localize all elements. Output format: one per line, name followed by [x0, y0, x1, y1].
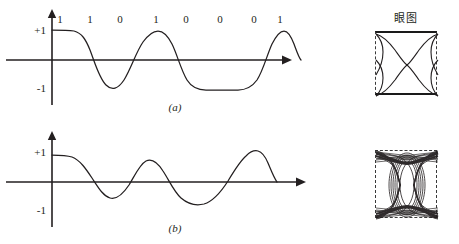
x-axis-b: [6, 178, 306, 187]
eye-diagram-box-bottom: [375, 150, 437, 218]
waveform-panel-a: 1 1 0 1 0 0 0 1 +1 -1 (a): [0, 0, 340, 122]
bit-label-5: 0: [213, 13, 227, 26]
y-axis-label-minus-one-b: -1: [20, 204, 46, 216]
signal-trace-b: [52, 151, 277, 205]
bit-label-4: 0: [179, 13, 193, 26]
bit-label-6: 0: [247, 13, 261, 26]
bit-sequence-row-a: 1 1 0 1 0 0 0 1: [52, 13, 288, 27]
x-axis-a: [6, 56, 292, 65]
eye-diagram-panel-bottom: [352, 122, 459, 244]
eye-trace-oval-multitrace: [375, 150, 439, 220]
bit-label-2: 0: [113, 13, 127, 26]
bit-label-3: 1: [149, 13, 163, 26]
panel-caption-a: (a): [155, 101, 195, 113]
bit-label-1: 1: [83, 13, 97, 26]
eye-diagram-panel-top: 眼图: [352, 0, 459, 122]
y-axis-label-minus-one-a: -1: [20, 82, 46, 94]
eye-diagram-title: 眼图: [352, 12, 459, 26]
eye-trace-diamond: [375, 32, 439, 98]
y-axis-b: [48, 131, 56, 227]
y-axis-label-plus-one-b: +1: [20, 146, 46, 158]
y-axis-label-plus-one-a: +1: [20, 24, 46, 36]
figure-root: 1 1 0 1 0 0 0 1 +1 -1 (a) +1 -1 (: [0, 0, 459, 244]
waveform-panel-b: +1 -1 (b): [0, 122, 340, 244]
panel-caption-b: (b): [155, 222, 195, 234]
bit-label-0: 1: [53, 13, 67, 26]
eye-diagram-box-top: [375, 31, 437, 95]
bit-label-7: 1: [273, 13, 287, 26]
